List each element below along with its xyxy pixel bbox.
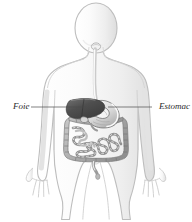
label-estomac: Estomac <box>159 102 190 111</box>
leg-left-inner <box>83 162 92 220</box>
leg-right-inner <box>100 162 109 220</box>
anatomy-figure: Foie Estomac <box>0 0 192 222</box>
anatomy-illustration <box>0 0 192 222</box>
label-foie: Foie <box>13 102 30 111</box>
